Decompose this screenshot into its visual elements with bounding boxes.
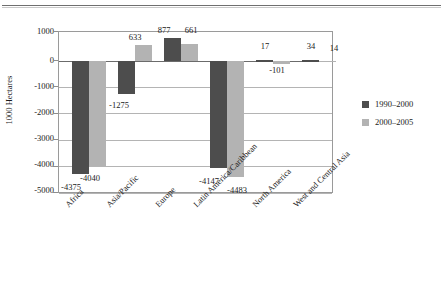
data-label-africa-2000-2005: -4040 xyxy=(70,174,110,183)
legend: 1990–2000 2000–2005 xyxy=(362,100,442,136)
y-tick-label: 0 xyxy=(2,56,54,65)
data-label-west-central-asia-2000-2005: 14 xyxy=(314,44,354,53)
y-tick-label: -3000 xyxy=(2,134,54,143)
plot-area xyxy=(58,31,333,193)
gridline xyxy=(59,166,332,167)
bar-west-central-asia-2000-2005 xyxy=(319,61,336,62)
bar-africa-1990-2000 xyxy=(72,61,89,174)
y-tick-label: -5000 xyxy=(2,186,54,195)
bar-africa-2000-2005 xyxy=(89,61,106,166)
bar-north-america-2000-2005 xyxy=(273,61,290,64)
data-label-africa-1990-2000: -4375 xyxy=(51,183,91,192)
data-label-north-america-2000-2005: -101 xyxy=(257,66,297,75)
dark-gray-swatch-icon xyxy=(362,101,369,108)
page-top-rule-secondary xyxy=(2,7,441,8)
y-tick-label: -4000 xyxy=(2,160,54,169)
data-label-europe-2000-2005: 661 xyxy=(171,26,211,35)
bar-europe-2000-2005 xyxy=(181,44,198,61)
y-axis-ticks: 1000 0 -1000 -2000 -3000 -4000 -5000 xyxy=(0,0,54,300)
legend-label: 1990–2000 xyxy=(375,100,413,109)
bar-latin-america-caribbean-1990-2000 xyxy=(210,61,227,168)
figure-container: 1000 Hectares 1000 0 -1000 -2000 -3000 -… xyxy=(0,0,443,300)
data-label-north-america-1990-2000: 17 xyxy=(245,42,285,51)
y-tick-label: -2000 xyxy=(2,108,54,117)
legend-label: 2000–2005 xyxy=(375,118,413,127)
legend-item-1990-2000: 1990–2000 xyxy=(362,100,442,109)
data-label-asia-pacific-1990-2000: -1275 xyxy=(99,101,139,110)
bar-asia-pacific-2000-2005 xyxy=(135,45,152,61)
legend-item-2000-2005: 2000–2005 xyxy=(362,118,442,127)
gridline xyxy=(59,193,332,194)
y-tick-label: 1000 xyxy=(2,27,54,36)
bar-north-america-1990-2000 xyxy=(256,60,273,62)
light-gray-swatch-icon xyxy=(362,119,369,126)
page-top-rule xyxy=(2,5,441,6)
bar-asia-pacific-1990-2000 xyxy=(118,61,135,94)
data-label-latin-america-2000-2005: -4483 xyxy=(217,186,257,195)
bar-europe-1990-2000 xyxy=(164,38,181,61)
y-tick-label: -1000 xyxy=(2,82,54,91)
bar-west-central-asia-1990-2000 xyxy=(302,60,319,62)
